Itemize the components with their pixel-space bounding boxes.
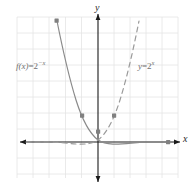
label-fx-prefix: f(x) xyxy=(16,61,29,71)
curve-label-f-of-x: f(x)=2−x xyxy=(16,62,45,71)
marker-intersection-0-1 xyxy=(96,130,100,134)
marker-top-left-solid xyxy=(55,19,59,23)
graph-canvas xyxy=(0,0,196,195)
y-axis-label: y xyxy=(95,3,99,13)
label-y2x-exponent: x xyxy=(152,59,155,66)
marker-dashed-at-1-2 xyxy=(112,114,116,118)
label-fx-exponent: −x xyxy=(38,59,45,66)
curve-dashed-y-equals-2x xyxy=(26,21,139,144)
curve-label-y-equals-2x: y=2x xyxy=(138,62,154,71)
marker-x-axis-right xyxy=(166,140,170,144)
x-axis-label: x xyxy=(183,134,187,144)
marker-solid-at-neg1-2 xyxy=(80,114,84,118)
exponential-functions-graph: f(x)=2−x y=2x y x xyxy=(0,0,196,195)
y-axis xyxy=(96,14,101,182)
curve-solid-f-of-x xyxy=(57,21,172,144)
